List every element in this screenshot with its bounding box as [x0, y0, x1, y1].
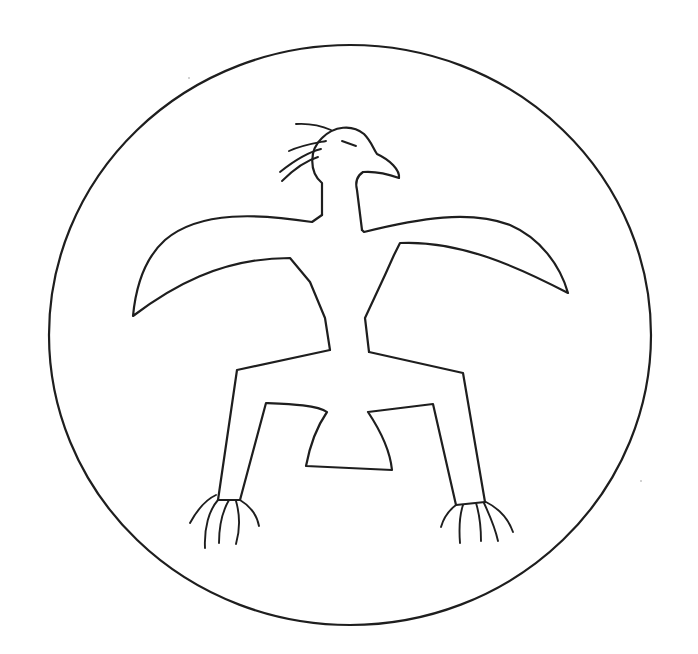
body: [218, 350, 485, 505]
eye-icon: [342, 141, 356, 146]
left-leg: [218, 350, 330, 500]
circle-frame: [49, 45, 651, 625]
speck: [188, 77, 190, 79]
head: [312, 128, 399, 230]
thunderbird-drawing: [0, 0, 698, 654]
right-wing: [362, 217, 568, 352]
crest-icon: [280, 124, 331, 181]
right-talons: [441, 502, 513, 543]
right-leg: [369, 352, 485, 502]
illustration-canvas: Thunderbird line drawing in a circle: [0, 0, 698, 654]
left-wing: [133, 215, 330, 350]
speck: [640, 480, 642, 482]
left-talons: [190, 495, 259, 548]
